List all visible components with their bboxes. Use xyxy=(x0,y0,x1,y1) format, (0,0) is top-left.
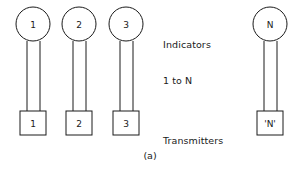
transmitters-annotation: Transmitters 1 to 'N' xyxy=(163,111,223,171)
indicator-label-2: 2 xyxy=(76,20,82,30)
transmitters-annotation-line1: Transmitters xyxy=(163,135,223,147)
figure-caption: (a) xyxy=(0,150,300,161)
indicators-annotation-line2: 1 to N xyxy=(163,75,211,87)
unit-column-n: N 'N' xyxy=(253,7,287,135)
transmitter-label-1: 1 xyxy=(30,119,36,129)
indicator-label-3: 3 xyxy=(123,20,129,30)
indicator-label-n: N xyxy=(267,20,274,30)
unit-column-3: 3 3 xyxy=(109,7,143,135)
transmitter-label-3: 3 xyxy=(123,119,129,129)
unit-column-2: 2 2 xyxy=(62,7,96,135)
figure-diagram: 1 1 2 2 3 3 N 'N' xyxy=(0,0,300,171)
indicators-annotation-line1: Indicators xyxy=(163,39,211,51)
unit-column-1: 1 1 xyxy=(16,7,50,135)
diagram-canvas: 1 1 2 2 3 3 N 'N' xyxy=(0,0,300,171)
indicator-label-1: 1 xyxy=(30,20,36,30)
transmitter-label-2: 2 xyxy=(76,119,82,129)
indicators-annotation: Indicators 1 to N xyxy=(163,15,211,111)
transmitter-label-n: 'N' xyxy=(264,119,276,129)
